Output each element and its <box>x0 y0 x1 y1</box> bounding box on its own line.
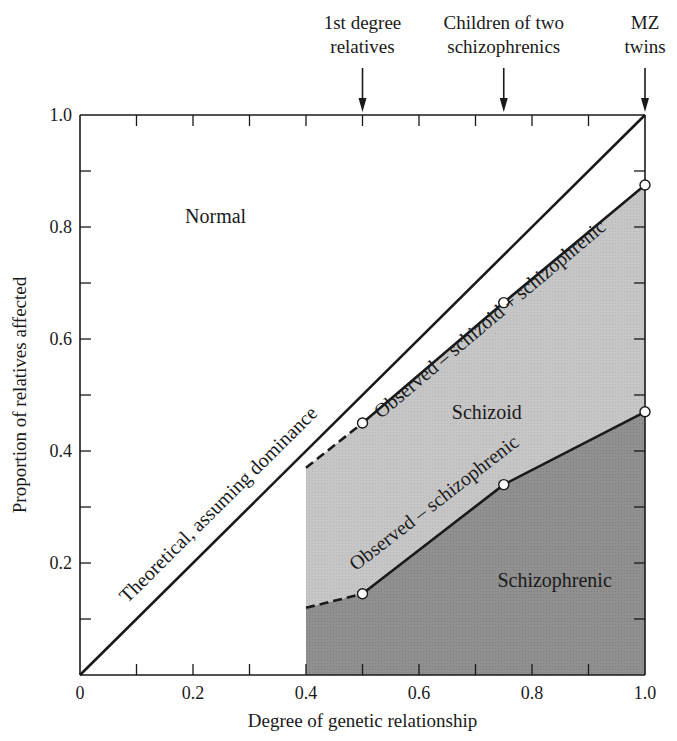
x-tick-label: 1.0 <box>634 683 657 703</box>
annotation-3: MZtwins <box>624 12 665 112</box>
data-point-marker <box>358 589 368 599</box>
y-tick-label: 0.8 <box>50 217 73 237</box>
region-label-schizophrenic: Schizophrenic <box>497 569 612 592</box>
y-tick-label: 0.2 <box>50 553 73 573</box>
annotation-text: schizophrenics <box>447 36 560 57</box>
annotation-text: Children of two <box>444 12 564 33</box>
data-point-marker <box>499 480 509 490</box>
region-label-schizoid: Schizoid <box>452 401 522 423</box>
x-tick-label: 0.4 <box>295 683 318 703</box>
down-arrow-icon <box>359 98 367 112</box>
y-tick-labels: 0.20.40.60.81.0 <box>50 105 73 573</box>
top-annotations: 1st degreerelativesChildren of twoschizo… <box>324 12 666 112</box>
theoretical-line-label: Theoretical, assuming dominance <box>115 401 323 607</box>
data-point-marker <box>358 418 368 428</box>
data-point-marker <box>640 407 650 417</box>
shaded-regions <box>306 185 645 675</box>
annotation-text: relatives <box>330 36 394 57</box>
region-label-normal: Normal <box>185 205 247 227</box>
y-axis-title: Proportion of relatives affected <box>9 276 30 513</box>
annotation-text: 1st degree <box>324 12 402 33</box>
chart-canvas: 00.20.40.60.81.0 0.20.40.60.81.0 Theoret… <box>0 0 677 741</box>
x-tick-labels: 00.20.40.60.81.0 <box>76 683 657 703</box>
x-axis-title: Degree of genetic relationship <box>248 710 477 731</box>
x-tick-label: 0.6 <box>408 683 431 703</box>
y-tick-label: 1.0 <box>50 105 73 125</box>
y-tick-label: 0.6 <box>50 329 73 349</box>
x-tick-label: 0 <box>76 683 85 703</box>
down-arrow-icon <box>500 98 508 112</box>
annotation-text: twins <box>624 36 665 57</box>
annotation-text: MZ <box>631 12 660 33</box>
down-arrow-icon <box>641 98 649 112</box>
y-tick-label: 0.4 <box>50 441 73 461</box>
x-tick-label: 0.2 <box>182 683 205 703</box>
annotation-2: Children of twoschizophrenics <box>444 12 564 112</box>
data-point-marker <box>640 180 650 190</box>
chart-figure: 00.20.40.60.81.0 0.20.40.60.81.0 Theoret… <box>0 0 677 741</box>
annotation-1: 1st degreerelatives <box>324 12 402 112</box>
x-tick-label: 0.8 <box>521 683 544 703</box>
